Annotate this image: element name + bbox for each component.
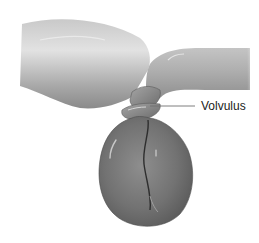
volvulus-illustration: [0, 0, 259, 243]
volvulus-label: Volvulus: [201, 99, 246, 113]
right-bowel-segment: [146, 44, 259, 101]
distended-loop: [99, 117, 193, 227]
left-bowel-segment: [0, 19, 150, 108]
